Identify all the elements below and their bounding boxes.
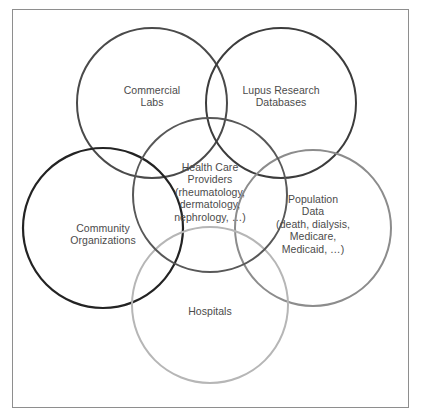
label-commercial-labs: Commercial Labs	[92, 84, 212, 109]
label-lupus-research-databases: Lupus Research Databases	[221, 84, 341, 109]
venn-diagram-figure: Commercial Labs Lupus Research Databases…	[0, 0, 423, 420]
label-community-organizations: Community Organizations	[43, 222, 163, 247]
label-hospitals: Hospitals	[150, 305, 270, 317]
label-population-data: Population Data (death, dialysis, Medica…	[253, 193, 373, 255]
label-health-care-providers: Health Care Providers (rheumatology, der…	[150, 161, 270, 223]
